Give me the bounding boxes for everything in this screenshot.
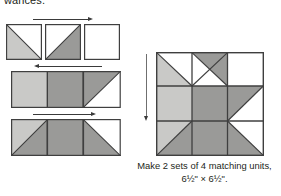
step-1-group [6, 17, 121, 59]
finished-block-diagram [156, 52, 264, 156]
block-caption: Make 2 sets of 4 matching units, 6½" × 6… [128, 160, 281, 185]
step-1-unit-2 [45, 24, 81, 60]
step-1-unit-3 [84, 24, 120, 60]
step-3-strip [11, 119, 121, 156]
step-1-unit-1 [6, 24, 42, 60]
step-2-group [11, 64, 123, 108]
finished-block-group [140, 52, 270, 157]
block-height-arrow [144, 54, 150, 122]
caption-line-2: 6½" × 6½". [128, 173, 281, 186]
step-3-group [11, 112, 123, 156]
caption-line-1: Make 2 sets of 4 matching units, [137, 160, 271, 171]
illustration-canvas: wances. [0, 0, 281, 196]
step-2-arrow [34, 64, 104, 69]
step-1-arrow [33, 17, 93, 22]
step-3-arrow [33, 112, 96, 117]
clipped-paragraph-text: wances. [4, 0, 45, 6]
step-2-strip [11, 71, 121, 108]
